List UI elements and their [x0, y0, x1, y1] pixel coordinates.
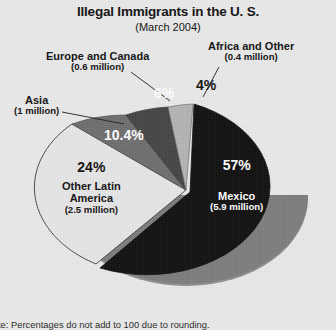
callout-africa-other: Africa and Other (0.4 million) — [208, 40, 294, 63]
slice-label-other-latin-america: 24% Other Latin America (2.5 million) — [62, 160, 121, 216]
callout-europe-canada: Europe and Canada (0.6 million) — [46, 50, 149, 73]
callout-europe-canada-name: Europe and Canada — [46, 50, 149, 62]
slice-value-other-latin-america-pct: 24% — [62, 160, 121, 176]
callout-africa-other-amount: (0.4 million) — [208, 52, 294, 63]
slice-amount-other-latin-america: (2.5 million) — [62, 205, 121, 216]
callout-asia-name: Asia — [25, 94, 48, 106]
slice-value-africa-other-pct: 4% — [196, 78, 216, 94]
chart-footnote: Note: Percentages do not add to 100 due … — [0, 319, 210, 330]
slice-amount-mexico: (5.9 million) — [210, 202, 263, 213]
slice-value-europe-canada-pct: 6% — [154, 86, 174, 102]
callout-europe-canada-amount: (0.6 million) — [46, 62, 149, 73]
slice-value-mexico-pct: 57% — [210, 158, 263, 174]
slice-value-asia-pct: 10.4% — [104, 128, 144, 144]
callout-africa-other-name: Africa and Other — [208, 40, 294, 52]
callout-asia-amount: (1 million) — [14, 106, 59, 117]
slice-value-asia: 10.4% — [104, 128, 144, 144]
slice-name-other-latin-america-line1: Other Latin — [62, 180, 121, 193]
slice-label-mexico: 57% Mexico (5.9 million) — [210, 158, 263, 213]
callout-asia: Asia (1 million) — [14, 94, 59, 117]
slice-value-africa-other: 4% — [196, 78, 216, 94]
slice-value-europe-canada: 6% — [154, 86, 174, 102]
